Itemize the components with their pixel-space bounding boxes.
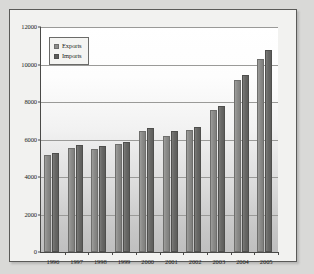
bar-imports-1996 bbox=[52, 153, 59, 252]
chart-card: 020004000600080001000012000 199619971998… bbox=[9, 9, 297, 262]
bar-exports-1997 bbox=[68, 148, 75, 252]
bar-imports-2005 bbox=[265, 50, 272, 252]
bar-exports-1996 bbox=[44, 155, 51, 252]
x-tick-mark bbox=[112, 252, 113, 255]
bar-exports-1998 bbox=[91, 149, 98, 252]
y-tick-label: 12000 bbox=[21, 24, 37, 31]
bar-exports-2000 bbox=[139, 131, 146, 252]
bar-exports-2001 bbox=[163, 136, 170, 252]
x-tick-mark bbox=[88, 252, 89, 255]
x-tick-label: 1999 bbox=[118, 259, 131, 266]
bar-imports-2002 bbox=[194, 127, 201, 252]
x-tick-label: 1997 bbox=[70, 259, 83, 266]
bar-group bbox=[231, 27, 255, 252]
bar-exports-2005 bbox=[257, 59, 264, 252]
y-tick-label: 2000 bbox=[24, 211, 37, 218]
bar-imports-2003 bbox=[218, 106, 225, 252]
x-tick-label: 2003 bbox=[212, 259, 225, 266]
x-tick-mark bbox=[65, 252, 66, 255]
legend-item-exports: Exports bbox=[54, 41, 82, 51]
bar-group bbox=[160, 27, 184, 252]
bar-group bbox=[254, 27, 278, 252]
bar-exports-2004 bbox=[234, 80, 241, 253]
bar-imports-2001 bbox=[171, 131, 178, 252]
chart-legend: Exports Imports bbox=[49, 37, 89, 65]
x-tick-label: 2004 bbox=[236, 259, 249, 266]
y-tick-label: 4000 bbox=[24, 174, 37, 181]
bar-group bbox=[112, 27, 136, 252]
x-tick-label: 2005 bbox=[260, 259, 273, 266]
x-tick-label: 1996 bbox=[47, 259, 60, 266]
y-tick-label: 0 bbox=[34, 249, 37, 256]
bar-exports-2003 bbox=[210, 110, 217, 253]
bar-exports-1999 bbox=[115, 144, 122, 252]
y-tick-label: 6000 bbox=[24, 136, 37, 143]
x-tick-mark bbox=[207, 252, 208, 255]
x-tick-mark bbox=[231, 252, 232, 255]
y-tick-label: 8000 bbox=[24, 99, 37, 106]
chart-root: 020004000600080001000012000 199619971998… bbox=[0, 0, 314, 274]
bar-group bbox=[88, 27, 112, 252]
legend-swatch-exports bbox=[54, 44, 59, 49]
bar-exports-2002 bbox=[186, 130, 193, 252]
x-tick-label: 2001 bbox=[165, 259, 178, 266]
legend-label-imports: Imports bbox=[62, 53, 82, 60]
x-tick-mark bbox=[160, 252, 161, 255]
x-tick-mark bbox=[254, 252, 255, 255]
x-tick-mark bbox=[136, 252, 137, 255]
y-tick-label: 10000 bbox=[21, 61, 37, 68]
bar-group bbox=[207, 27, 231, 252]
legend-label-exports: Exports bbox=[62, 43, 82, 50]
bar-imports-2004 bbox=[242, 75, 249, 252]
bar-imports-1998 bbox=[99, 146, 106, 252]
bar-group bbox=[183, 27, 207, 252]
bar-imports-1999 bbox=[123, 142, 130, 252]
x-tick-label: 2000 bbox=[141, 259, 154, 266]
bar-imports-2000 bbox=[147, 128, 154, 252]
legend-swatch-imports bbox=[54, 54, 59, 59]
bar-imports-1997 bbox=[76, 145, 83, 252]
x-tick-mark bbox=[278, 252, 279, 255]
legend-item-imports: Imports bbox=[54, 51, 82, 61]
x-tick-label: 2002 bbox=[189, 259, 202, 266]
x-tick-mark bbox=[183, 252, 184, 255]
bar-group bbox=[136, 27, 160, 252]
x-tick-label: 1998 bbox=[94, 259, 107, 266]
